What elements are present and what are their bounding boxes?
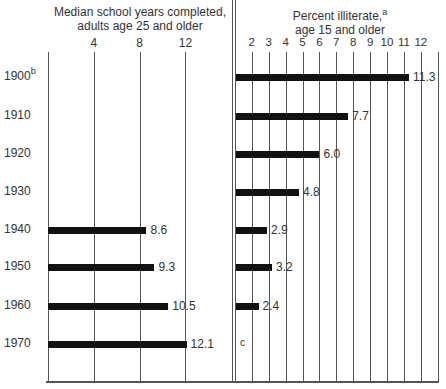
- right-title-line2: age 15 and older: [240, 23, 440, 37]
- right-value-label: 2.9: [271, 223, 288, 237]
- year-label: 1970: [4, 336, 31, 350]
- bottom-axis: [46, 381, 439, 383]
- footnote-c: c: [240, 337, 245, 348]
- right-gridline: [421, 52, 422, 382]
- left-value-label: 9.3: [158, 260, 175, 274]
- year-label: 1920: [4, 146, 31, 160]
- left-title-line1: Median school years completed,: [40, 5, 240, 19]
- right-gridline: [404, 52, 405, 382]
- right-bar: [236, 189, 299, 196]
- right-gridline: [370, 52, 371, 382]
- right-title-line1: Percent illiterate,a: [240, 5, 440, 23]
- left-title-line2: adults age 25 and older: [40, 19, 240, 33]
- right-bar: [236, 151, 319, 158]
- left-gridline: [140, 52, 141, 382]
- left-axis-line: [48, 52, 49, 382]
- year-label: 1900b: [4, 69, 36, 83]
- right-gridline: [286, 52, 287, 382]
- left-tick-label: 12: [173, 36, 197, 50]
- left-bar: [48, 264, 154, 271]
- left-chart-title: Median school years completed, adults ag…: [40, 5, 240, 33]
- right-bar: [236, 303, 259, 310]
- right-gridline: [269, 52, 270, 382]
- left-tick-label: 4: [82, 36, 106, 50]
- right-edge-line: [438, 52, 439, 382]
- left-tick-label: 8: [128, 36, 152, 50]
- right-value-label: 4.8: [303, 185, 320, 199]
- year-label: 1960: [4, 298, 31, 312]
- footnote-b: b: [31, 66, 36, 76]
- right-bar: [236, 113, 348, 120]
- left-gridline: [185, 52, 186, 382]
- right-gridline: [387, 52, 388, 382]
- year-label: 1940: [4, 222, 31, 236]
- right-gridline: [336, 52, 337, 382]
- right-value-label: 2.4: [263, 299, 280, 313]
- right-bar: [236, 227, 267, 234]
- right-gridline: [252, 52, 253, 382]
- year-label: 1950: [4, 259, 31, 273]
- right-gridline: [303, 52, 304, 382]
- panel-divider-line: [232, 0, 233, 382]
- right-gridline: [353, 52, 354, 382]
- right-value-label: 11.3: [413, 70, 435, 84]
- left-bar: [48, 303, 168, 310]
- right-value-label: 7.7: [352, 109, 369, 123]
- footnote-a: a: [382, 7, 387, 17]
- right-tick-label: 12: [411, 36, 431, 48]
- left-gridline: [94, 52, 95, 382]
- year-label: 1930: [4, 184, 31, 198]
- right-bar: [236, 74, 409, 81]
- right-chart-title: Percent illiterate,a age 15 and older: [240, 5, 440, 37]
- left-value-label: 12.1: [191, 337, 214, 351]
- left-bar: [48, 341, 187, 348]
- right-value-label: 6.0: [323, 147, 340, 161]
- left-value-label: 8.6: [150, 223, 167, 237]
- left-value-label: 10.5: [172, 299, 195, 313]
- right-gridline: [319, 52, 320, 382]
- year-label: 1910: [4, 108, 31, 122]
- right-value-label: 3.2: [276, 260, 293, 274]
- left-bar: [48, 227, 146, 234]
- right-bar: [236, 264, 272, 271]
